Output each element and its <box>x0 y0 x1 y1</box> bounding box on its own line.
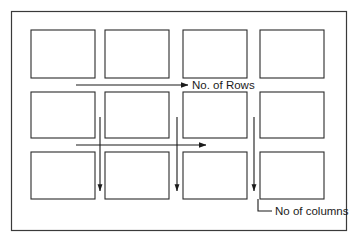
grid-cell-r1c2 <box>105 30 169 78</box>
grid-cell-r3c3 <box>183 152 247 199</box>
grid-cell-r1c1 <box>31 30 95 78</box>
grid-cell-r3c1 <box>31 152 95 199</box>
grid-layout-diagram: No. of Rows No of columns <box>0 0 359 243</box>
grid-cell-r2c1 <box>31 92 95 138</box>
columns-annotation-label: No of columns <box>275 205 349 217</box>
grid-cell-r2c4 <box>260 92 324 138</box>
grid-cell-r1c4 <box>260 30 324 78</box>
grid-cell-r3c4 <box>260 152 324 199</box>
grid-cell-r3c2 <box>105 152 169 199</box>
figure-canvas: No. of Rows No of columns <box>0 0 359 243</box>
grid-cell-r2c2 <box>105 92 169 138</box>
grid-cell-r2c3 <box>183 92 247 138</box>
rows-annotation-label: No. of Rows <box>192 79 255 91</box>
grid-cell-r1c3 <box>183 30 247 78</box>
